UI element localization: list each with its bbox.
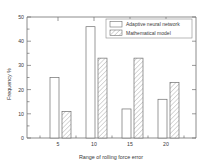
bar-mathematical-model-5	[62, 111, 71, 138]
bar-mathematical-model-10	[98, 58, 107, 138]
chart-container: 0 10 20 30 40 50 Frequency % 5	[0, 0, 203, 165]
legend-swatch-adaptive-neural-network	[110, 22, 122, 28]
bar-adaptive-neural-network-15	[122, 109, 131, 138]
y-tick-label-10: 10	[18, 111, 24, 117]
bar-chart-plot: 0 10 20 30 40 50 Frequency % 5	[0, 0, 203, 165]
legend-label-adaptive-neural-network: Adaptive neural network	[126, 21, 180, 27]
legend-label-mathematical-model: Mathematical model	[126, 30, 171, 36]
bar-mathematical-model-20	[170, 82, 179, 138]
x-tick-label-5: 5	[57, 141, 60, 147]
y-tick-label-40: 40	[18, 38, 24, 44]
y-tick-label-20: 20	[18, 87, 24, 93]
y-axis-title: Frequency %	[6, 68, 12, 100]
y-tick-label-30: 30	[18, 62, 24, 68]
x-tick-label-15: 15	[127, 141, 133, 147]
y-tick-label-50: 50	[18, 14, 24, 20]
bar-adaptive-neural-network-10	[86, 27, 95, 138]
x-tick-label-10: 10	[91, 141, 97, 147]
legend-swatch-mathematical-model	[110, 30, 122, 36]
x-tick-label-20: 20	[163, 141, 169, 147]
bar-mathematical-model-15	[134, 58, 143, 138]
x-axis-title: Range of rolling force error	[79, 154, 143, 160]
legend: Adaptive neural network Mathematical mod…	[106, 19, 192, 38]
bar-adaptive-neural-network-5	[50, 78, 59, 139]
y-tick-label-0: 0	[21, 135, 24, 141]
bar-adaptive-neural-network-20	[158, 99, 167, 138]
